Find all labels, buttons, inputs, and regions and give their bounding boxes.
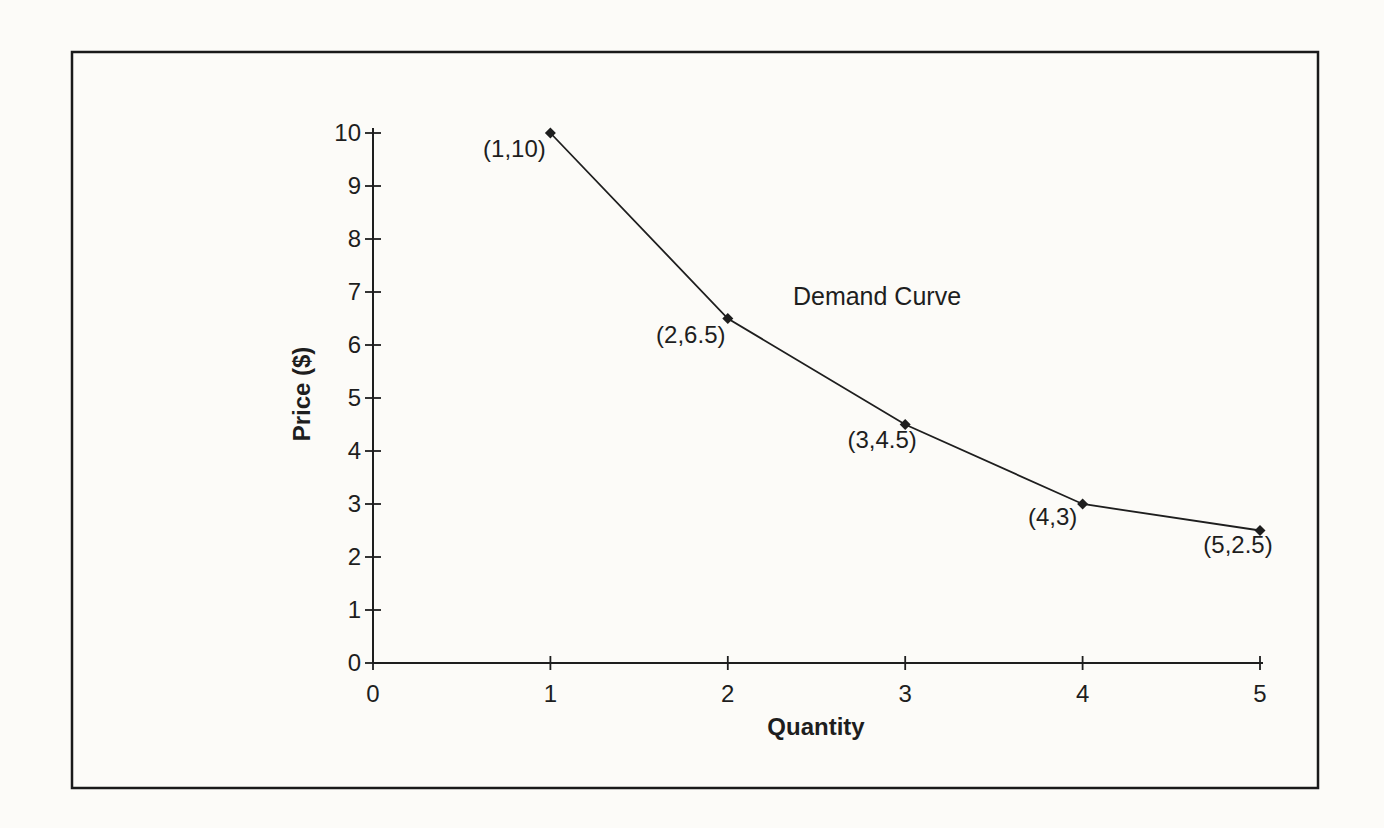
data-point-label: (2,6.5): [656, 321, 725, 348]
data-point-marker: [1077, 499, 1088, 510]
demand-curve-figure: 012345678910012345(1,10)(2,6.5)(3,4.5)(4…: [0, 0, 1384, 828]
series-annotation: Demand Curve: [793, 282, 961, 310]
y-tick-label: 3: [348, 490, 361, 517]
x-tick-label: 0: [366, 680, 379, 707]
y-tick-label: 7: [348, 278, 361, 305]
y-tick-label: 1: [348, 596, 361, 623]
data-point-label: (4,3): [1028, 503, 1077, 530]
y-tick-label: 6: [348, 331, 361, 358]
y-axis-title: Price ($): [288, 347, 315, 442]
y-tick-label: 10: [334, 119, 361, 146]
y-tick-label: 0: [348, 649, 361, 676]
x-tick-label: 4: [1076, 680, 1089, 707]
x-axis-title: Quantity: [767, 713, 865, 740]
y-tick-label: 2: [348, 543, 361, 570]
y-tick-label: 8: [348, 225, 361, 252]
y-tick-label: 5: [348, 384, 361, 411]
x-tick-label: 3: [899, 680, 912, 707]
y-tick-label: 9: [348, 172, 361, 199]
data-point-label: (3,4.5): [848, 426, 917, 453]
data-point-label: (5,2.5): [1203, 531, 1272, 558]
data-point-label: (1,10): [483, 135, 546, 162]
x-tick-label: 2: [721, 680, 734, 707]
y-tick-label: 4: [348, 437, 361, 464]
page-background: 012345678910012345(1,10)(2,6.5)(3,4.5)(4…: [0, 0, 1384, 828]
x-tick-label: 1: [544, 680, 557, 707]
x-tick-label: 5: [1253, 680, 1266, 707]
figure-border: [72, 52, 1318, 788]
